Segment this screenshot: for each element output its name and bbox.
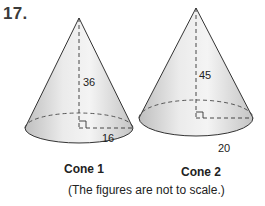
cone-2: 45 20 xyxy=(139,8,253,154)
cone-2-radius-label: 20 xyxy=(218,142,230,154)
cone-1: 36 16 xyxy=(25,18,133,144)
cone-comparison-figure: 17. 36 16 xyxy=(0,0,265,206)
cone-1-height-label: 36 xyxy=(83,76,95,88)
cone-1-radius-label: 16 xyxy=(102,132,114,144)
cone-1-name: Cone 1 xyxy=(64,162,104,176)
cones-drawing: 36 16 45 20 xyxy=(0,0,265,206)
cone-2-name: Cone 2 xyxy=(181,165,221,179)
scale-caption: (The figures are not to scale.) xyxy=(68,183,225,197)
cone-2-height-label: 45 xyxy=(199,69,211,81)
